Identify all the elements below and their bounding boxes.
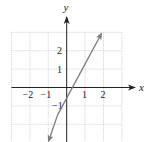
- coordinate-plane: x y −2 −1 1 2 2 1 −1: [0, 0, 151, 142]
- x-tick-label: −2: [23, 89, 34, 100]
- x-tick-label: 1: [82, 89, 87, 100]
- y-tick-label: 1: [57, 64, 62, 75]
- x-axis-label: x: [138, 81, 144, 93]
- plotted-line-lower: [49, 115, 58, 141]
- y-axis-label: y: [63, 1, 69, 13]
- x-tick-label: 2: [101, 89, 106, 100]
- plotted-line: [58, 34, 102, 116]
- y-tick-label: 2: [57, 45, 62, 56]
- x-tick-label: −1: [41, 89, 52, 100]
